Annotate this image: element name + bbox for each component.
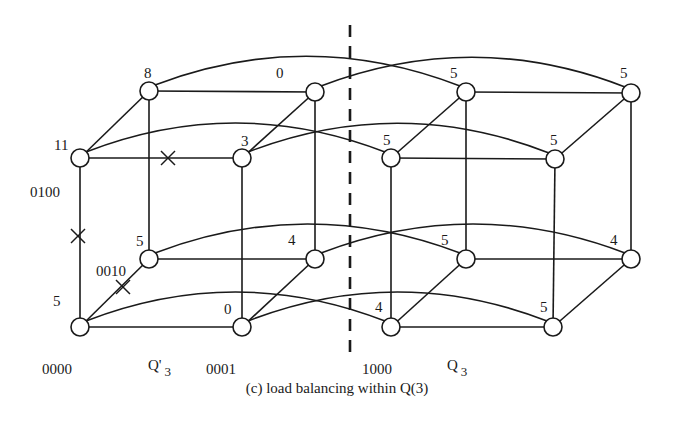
load-value: 5 bbox=[550, 132, 558, 148]
load-value: 4 bbox=[288, 232, 296, 248]
edge-tbl-tbr bbox=[466, 92, 631, 93]
node-left-tbl bbox=[140, 82, 158, 100]
node-right-bfr bbox=[544, 318, 562, 336]
node-right-tbr bbox=[622, 84, 640, 102]
cube-label: Q3 bbox=[447, 357, 467, 379]
load-value: 11 bbox=[54, 137, 68, 153]
load-value: 5 bbox=[620, 65, 628, 81]
load-value: 5 bbox=[540, 299, 548, 315]
node-left-tfr bbox=[233, 149, 251, 167]
edge-tbr-tfr bbox=[555, 93, 631, 159]
load-value: 4 bbox=[375, 299, 383, 315]
hypercube-graph: 8011354500100001000000001Q'3555554451000… bbox=[0, 0, 675, 425]
node-right-bbr bbox=[622, 250, 640, 268]
node-left-bfl bbox=[71, 318, 89, 336]
edge-tfl-tfr bbox=[391, 158, 555, 159]
node-address: 0000 bbox=[42, 361, 72, 377]
node-address: 0001 bbox=[206, 361, 236, 377]
node-right-tfr bbox=[546, 150, 564, 168]
node-left-tbr bbox=[306, 83, 324, 101]
node-address: 0100 bbox=[30, 184, 60, 200]
link-tbr bbox=[321, 57, 625, 87]
node-right-bfl bbox=[382, 318, 400, 336]
load-value: 5 bbox=[53, 293, 61, 309]
hypercube-load-balancing-diagram: 8011354500100001000000001Q'3555554451000… bbox=[0, 0, 675, 425]
load-value: 0 bbox=[224, 301, 232, 317]
load-value: 8 bbox=[144, 65, 152, 81]
figure-caption: (c) load balancing within Q(3) bbox=[246, 380, 428, 397]
edge-tbr-tfr bbox=[242, 92, 315, 158]
node-address: 0010 bbox=[96, 263, 126, 279]
load-value: 0 bbox=[276, 65, 284, 81]
load-value: 5 bbox=[450, 65, 458, 81]
inter-cube-links bbox=[86, 56, 625, 321]
node-left-bbr bbox=[306, 250, 324, 268]
load-value: 5 bbox=[383, 132, 391, 148]
node-left-tfl bbox=[71, 149, 89, 167]
cross-mark-icon bbox=[71, 229, 85, 243]
load-value: 5 bbox=[136, 233, 144, 249]
node-right-tbl bbox=[457, 83, 475, 101]
node-labels: 8011354500100001000000001Q'3555554451000… bbox=[30, 65, 628, 379]
node-left-bfr bbox=[233, 318, 251, 336]
node-right-tfl bbox=[382, 149, 400, 167]
load-value: 4 bbox=[610, 232, 618, 248]
edge-tbl-tfl bbox=[391, 92, 466, 158]
edge-bbr-bfr bbox=[553, 259, 631, 327]
edge-bbl-bfl bbox=[391, 259, 466, 327]
cube-label: Q'3 bbox=[148, 357, 171, 379]
cube-edges bbox=[80, 91, 631, 327]
load-value: 3 bbox=[241, 133, 249, 149]
edge-tbl-tbr bbox=[149, 91, 315, 92]
load-value: 5 bbox=[441, 232, 449, 248]
node-left-bbl bbox=[140, 250, 158, 268]
node-address: 1000 bbox=[362, 361, 392, 377]
cross-mark-icon bbox=[116, 280, 130, 294]
edge-tbl-tfl bbox=[80, 91, 149, 158]
node-right-bbl bbox=[457, 250, 475, 268]
edge-tfr-bfr bbox=[553, 159, 555, 327]
